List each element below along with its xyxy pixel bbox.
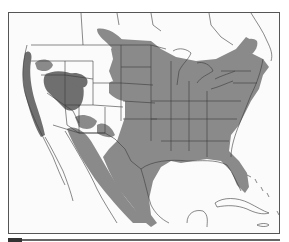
map-frame (8, 12, 280, 234)
range-dense-shading (23, 51, 88, 137)
bottom-rule (8, 239, 280, 241)
range-map (9, 13, 280, 234)
range-primary-shading (35, 29, 269, 227)
bottom-rule-cap (8, 238, 22, 242)
